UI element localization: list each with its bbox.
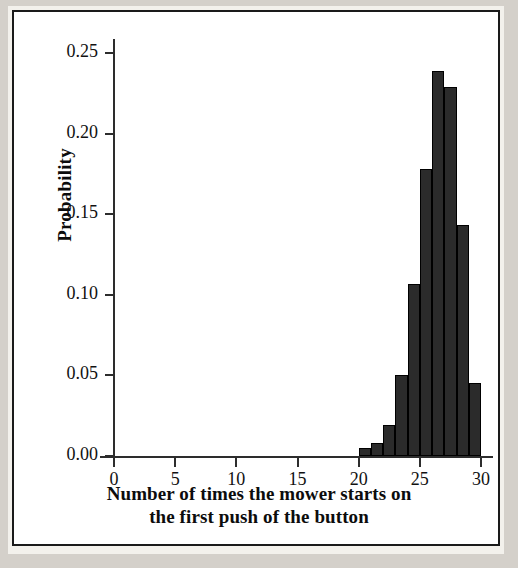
y-tick-label: 0.00	[42, 444, 98, 465]
x-tick-mark	[480, 458, 482, 467]
y-axis-line	[113, 39, 115, 458]
x-axis-title-line1: Number of times the mower starts on	[44, 482, 474, 505]
x-axis-title: Number of times the mower starts on the …	[44, 482, 474, 528]
x-tick-mark	[358, 458, 360, 467]
y-tick-label: 0.05	[42, 363, 98, 384]
histogram-bar	[444, 87, 456, 456]
x-tick-mark	[113, 458, 115, 467]
y-tick-mark	[105, 213, 114, 215]
histogram-bar	[383, 425, 395, 456]
x-tick-mark	[235, 458, 237, 467]
histogram-bar	[469, 383, 481, 456]
y-tick-mark	[105, 455, 114, 457]
figure-background: 0.000.050.100.150.200.25 051015202530 Pr…	[0, 0, 518, 568]
y-tick-label: 0.25	[42, 41, 98, 62]
histogram-bar	[408, 284, 420, 456]
y-tick-mark	[105, 52, 114, 54]
x-axis-title-line2: the first push of the button	[44, 505, 474, 528]
histogram-bar	[371, 443, 383, 456]
histogram-bar	[359, 448, 371, 456]
histogram-bar	[457, 225, 469, 456]
histogram-bar	[432, 71, 444, 456]
y-tick-mark	[105, 374, 114, 376]
y-tick-mark	[105, 133, 114, 135]
y-tick-mark	[105, 294, 114, 296]
y-axis-title: Probability	[54, 100, 76, 290]
plot-canvas: 0.000.050.100.150.200.25 051015202530 Pr…	[14, 12, 498, 544]
histogram-bar	[395, 375, 407, 456]
histogram-bar	[420, 169, 432, 456]
x-tick-mark	[174, 458, 176, 467]
x-tick-mark	[419, 458, 421, 467]
chart-frame: 0.000.050.100.150.200.25 051015202530 Pr…	[12, 10, 500, 546]
x-tick-mark	[297, 458, 299, 467]
